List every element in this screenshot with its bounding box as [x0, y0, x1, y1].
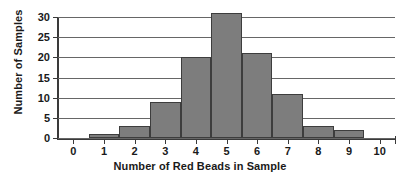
x-tick-mark-9 — [349, 140, 350, 144]
histogram-bar — [119, 126, 150, 138]
x-tick-mark-4 — [196, 140, 197, 144]
x-tick-mark-1 — [104, 140, 105, 144]
y-tick-mark-30 — [53, 17, 58, 18]
x-tick-mark-7 — [288, 140, 289, 144]
gridline-0 — [58, 138, 395, 139]
x-tick-label-6: 6 — [245, 146, 269, 157]
x-tick-mark-6 — [257, 140, 258, 144]
histogram-bar — [334, 130, 365, 138]
x-tick-label-5: 5 — [215, 146, 239, 157]
y-tick-label-25: 25 — [38, 32, 50, 43]
x-tick-mark-8 — [318, 140, 319, 144]
y-tick-mark-20 — [53, 57, 58, 58]
x-tick-mark-0 — [73, 140, 74, 144]
x-tick-mark-5 — [227, 140, 228, 144]
x-tick-label-9: 9 — [337, 146, 361, 157]
histogram-bar — [242, 53, 273, 138]
y-tick-label-15: 15 — [38, 73, 50, 84]
histogram-bar — [272, 94, 303, 138]
histogram-bar — [211, 13, 242, 138]
y-tick-mark-0 — [53, 138, 58, 139]
histogram-bar — [150, 102, 181, 138]
y-tick-mark-10 — [53, 98, 58, 99]
x-tick-label-4: 4 — [184, 146, 208, 157]
x-tick-label-0: 0 — [61, 146, 85, 157]
histogram-bar — [89, 134, 120, 138]
x-axis-tick-labels: 012345678910 — [58, 140, 398, 160]
y-tick-label-30: 30 — [38, 12, 50, 23]
x-tick-mark-10 — [380, 140, 381, 144]
x-tick-label-2: 2 — [123, 146, 147, 157]
x-axis-end-tick — [395, 136, 396, 144]
histogram-bar — [303, 126, 334, 138]
y-tick-label-5: 5 — [44, 113, 50, 124]
plot-area — [58, 17, 395, 139]
y-tick-mark-5 — [53, 118, 58, 119]
y-tick-label-10: 10 — [38, 93, 50, 104]
histogram-bar — [181, 57, 212, 138]
y-axis-tick-labels: 051015202530 — [0, 17, 58, 140]
histogram-figure: Number of Samples 051015202530 012345678… — [0, 0, 408, 183]
x-axis-title: Number of Red Beads in Sample — [30, 160, 370, 172]
y-tick-label-20: 20 — [38, 52, 50, 63]
x-tick-label-1: 1 — [92, 146, 116, 157]
x-tick-label-10: 10 — [368, 146, 392, 157]
y-tick-mark-15 — [53, 78, 58, 79]
x-tick-mark-3 — [165, 140, 166, 144]
x-tick-label-7: 7 — [276, 146, 300, 157]
y-tick-mark-25 — [53, 37, 58, 38]
y-axis-line — [57, 17, 59, 140]
x-tick-label-3: 3 — [153, 146, 177, 157]
x-tick-label-8: 8 — [306, 146, 330, 157]
x-tick-mark-2 — [135, 140, 136, 144]
y-tick-label-0: 0 — [44, 133, 50, 144]
